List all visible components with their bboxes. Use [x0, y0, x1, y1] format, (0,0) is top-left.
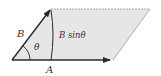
label-a: A — [45, 64, 53, 75]
label-b: B — [16, 28, 24, 39]
label-b-sin-theta: B sinθ — [58, 30, 86, 40]
label-theta: θ — [34, 42, 40, 52]
parallelogram-diagram: B θ B sinθ A — [0, 0, 161, 76]
